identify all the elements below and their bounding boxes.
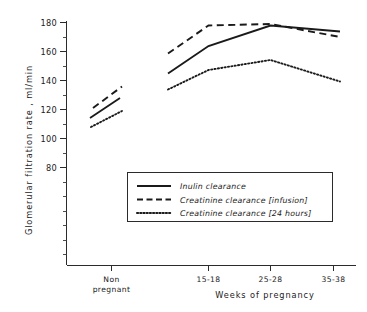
- legend-label-creatinine-clearance-24-hours: Creatinine clearance [24 hours]: [180, 209, 311, 218]
- x-tick-label-15-18: 15-18: [196, 275, 220, 284]
- nonpregnant-segment-creatinine-infusion: [93, 87, 122, 109]
- y-tick-labels: 180 160 140 120 100 80: [40, 18, 57, 173]
- x-tick-label-35-38: 35-38: [321, 275, 345, 284]
- x-ticks: [112, 266, 334, 272]
- series-line-creatinine-clearance-24-hours: [168, 60, 340, 90]
- nonpregnant-segments: [90, 87, 122, 128]
- legend: Inulin clearance Creatinine clearance [i…: [128, 173, 333, 222]
- y-axis-title: Glomerular filtration rate , ml/min: [24, 65, 34, 235]
- y-tick-label: 120: [40, 105, 57, 115]
- x-axis-title: Weeks of pregnancy: [215, 290, 314, 300]
- legend-label-inulin-clearance: Inulin clearance: [180, 182, 246, 191]
- series-group: [168, 24, 340, 90]
- y-tick-label: 100: [40, 134, 57, 144]
- y-tick-label: 180: [40, 18, 57, 28]
- glomerular-filtration-rate-line-chart: 180 160 140 120 100 80 Glomerular filtra…: [0, 0, 367, 312]
- chart-figure: 180 160 140 120 100 80 Glomerular filtra…: [0, 0, 367, 312]
- y-tick-label: 160: [40, 47, 57, 57]
- legend-label-creatinine-clearance-infusion: Creatinine clearance [infusion]: [180, 196, 308, 205]
- y-minor-ticks: [63, 37, 67, 255]
- x-tick-label-nonpregnant-line2: pregnant: [93, 285, 131, 294]
- x-tick-label-25-28: 25-28: [258, 275, 282, 284]
- axis-group: [67, 21, 357, 266]
- x-tick-label-nonpregnant-line1: Non: [103, 275, 119, 284]
- y-tick-label: 80: [46, 163, 57, 173]
- y-tick-label: 140: [40, 76, 57, 86]
